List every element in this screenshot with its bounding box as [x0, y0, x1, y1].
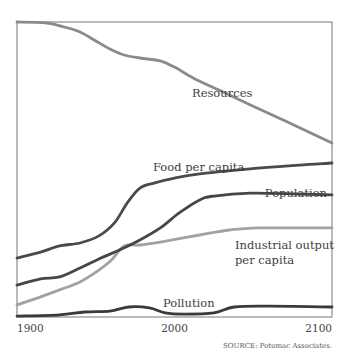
series-label-resources: Resources [192, 86, 252, 100]
x-tick-label: 2000 [161, 322, 188, 334]
x-tick-label: 2100 [305, 322, 332, 334]
source-note: SOURCE: Potomac Associates. [223, 342, 332, 350]
series-label-industrial-output-per-capita: per capita [235, 253, 294, 267]
series-label-food-per-capita: Food per capita [153, 160, 244, 174]
chart: ResourcesFood per capitaPopulationIndust… [0, 0, 345, 360]
x-tick-label: 1900 [17, 322, 44, 334]
series-label-industrial-output-per-capita: Industrial output [235, 238, 334, 252]
series-label-pollution: Pollution [163, 296, 215, 310]
series-line-resources [17, 22, 332, 143]
series-label-population: Population [265, 186, 328, 200]
